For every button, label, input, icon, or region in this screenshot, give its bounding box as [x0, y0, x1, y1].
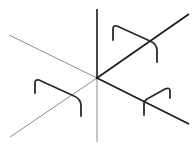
origin-point — [96, 77, 99, 80]
axis-diagram — [0, 0, 192, 156]
axis-diagram-svg — [0, 0, 192, 156]
